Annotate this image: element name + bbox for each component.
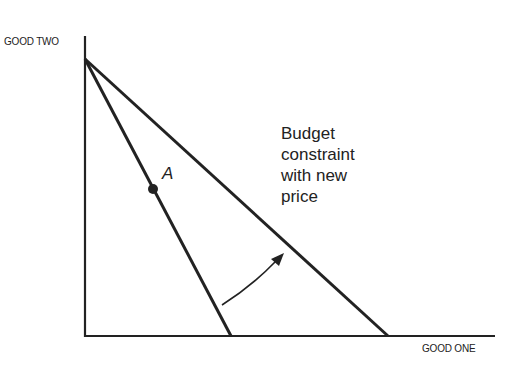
annotation-line: price [281, 186, 401, 207]
budget-constraint-diagram [0, 0, 519, 380]
point-a-marker [148, 184, 158, 194]
x-axis-label: GOOD ONE [422, 343, 475, 354]
annotation-line: with new [281, 165, 401, 186]
annotation-line: Budget [281, 123, 401, 144]
original-budget-line [85, 59, 231, 336]
rotation-arrow [222, 261, 276, 305]
point-a-label: A [162, 164, 173, 184]
y-axis-label: GOOD TWO [4, 36, 59, 47]
annotation-line: constraint [281, 144, 401, 165]
budget-annotation: Budget constraint with new price [281, 123, 401, 207]
